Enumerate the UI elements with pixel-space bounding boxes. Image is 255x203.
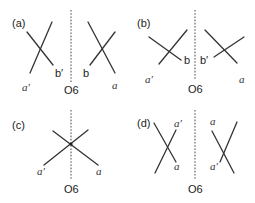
panel-d-label: (d) [137, 117, 150, 129]
panel-b-label: (b) [137, 17, 150, 29]
bond-line [88, 22, 115, 73]
label-b-prime: b′ [55, 67, 63, 79]
label-a: a [239, 73, 245, 85]
left-cross [27, 22, 53, 73]
bond-line [154, 123, 176, 162]
cross [44, 130, 98, 165]
center-atom [69, 142, 72, 145]
label-a: a [210, 115, 216, 127]
diagram-canvas: (a) O6 b′ a′ b a (b) O6 b a′ b′ a [0, 0, 255, 203]
bond-line [90, 32, 115, 65]
right-cross [205, 30, 244, 63]
panel-b: (b) O6 b a′ b′ a [137, 10, 245, 95]
panel-a: (a) O6 b′ a′ b a [12, 10, 118, 96]
panel-b-mirror-label: O6 [188, 83, 203, 95]
label-b: b [83, 67, 89, 79]
panel-c-label: (c) [12, 119, 25, 131]
bond-line [205, 30, 237, 63]
label-a-prime: a′ [210, 160, 219, 172]
bond-line [44, 130, 88, 165]
panel-d-mirror-label: O6 [188, 183, 203, 195]
panel-d: (d) O6 a′ a a a′ [137, 110, 237, 195]
left-cross [149, 30, 187, 64]
label-b: b [184, 54, 190, 66]
panel-c: (c) O6 a′ a [12, 110, 102, 195]
panel-a-label: (a) [12, 17, 25, 29]
right-cross [88, 22, 115, 73]
panel-c-mirror-label: O6 [64, 183, 79, 195]
label-a: a [112, 79, 118, 91]
label-a: a [174, 160, 180, 172]
label-a-prime: a′ [174, 117, 183, 129]
label-a-prime: a′ [145, 73, 154, 85]
bond-line [220, 122, 237, 162]
label-a-prime: a′ [37, 165, 46, 177]
label-a-prime: a′ [22, 81, 31, 93]
bond-line [53, 131, 98, 165]
panel-a-mirror-label: O6 [64, 84, 79, 96]
label-b-prime: b′ [200, 54, 208, 66]
left-cross [154, 123, 176, 173]
bond-line [30, 22, 52, 73]
bond-line [155, 130, 176, 173]
label-a: a [96, 165, 102, 177]
